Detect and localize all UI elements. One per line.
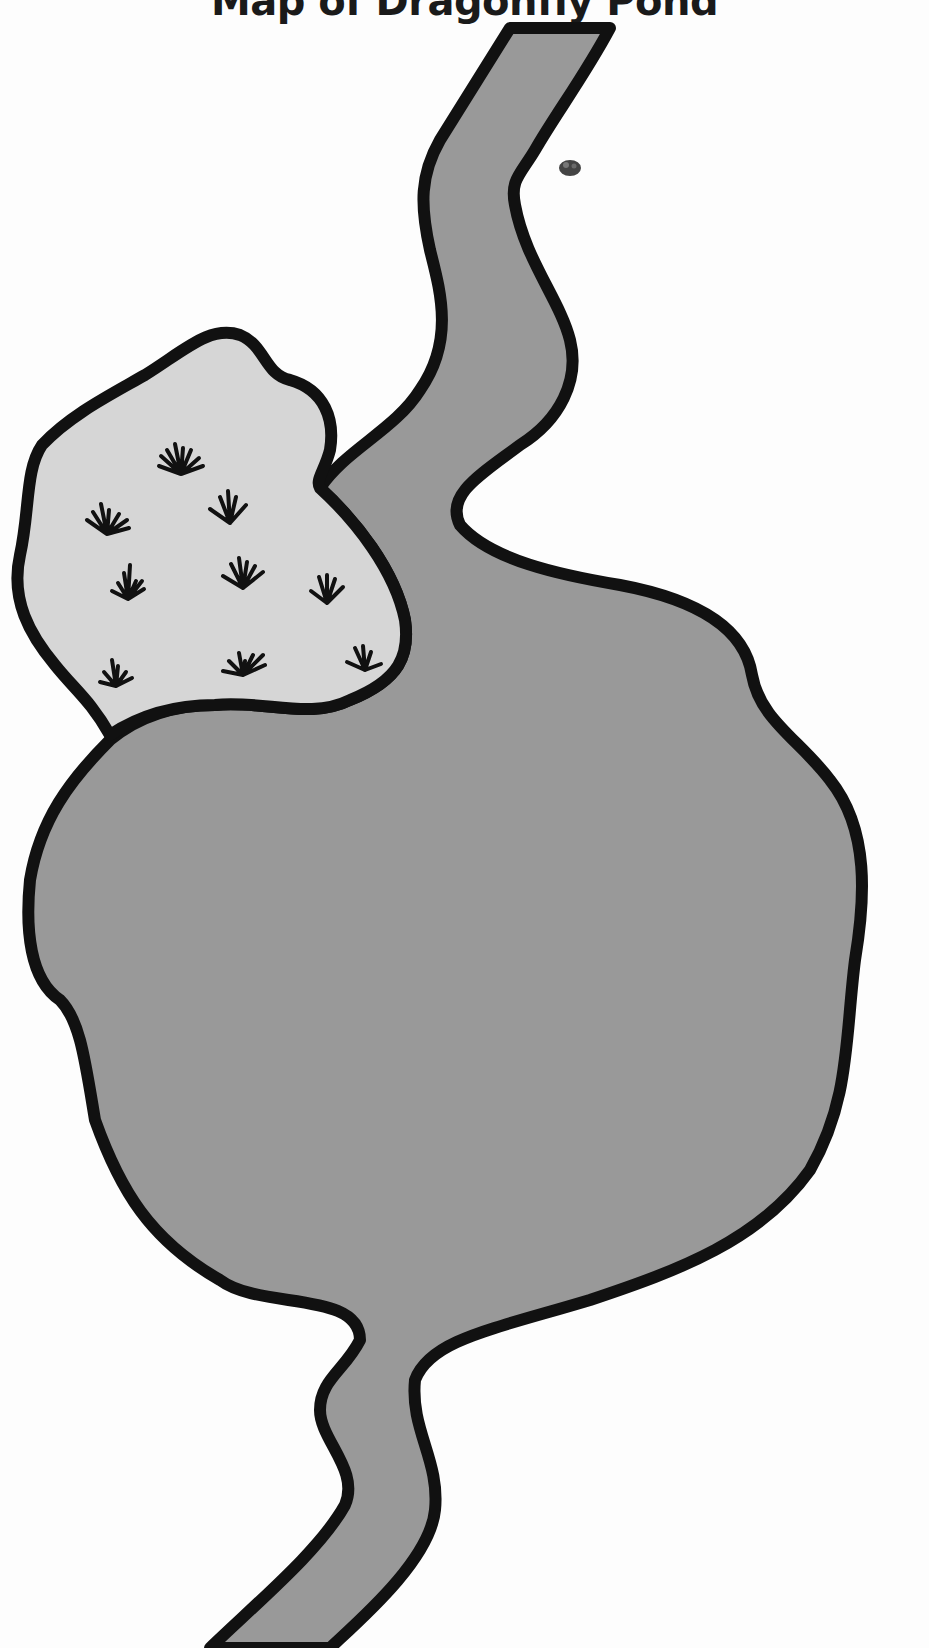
rock-icon xyxy=(559,160,581,176)
marsh-area xyxy=(17,333,406,735)
pond-and-streams xyxy=(28,28,862,1648)
pond-map xyxy=(0,0,929,1648)
